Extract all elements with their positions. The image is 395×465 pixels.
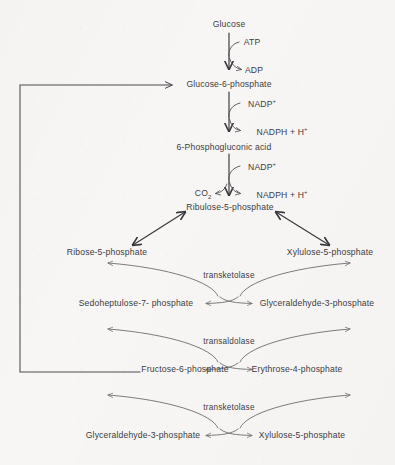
nadph-charge-2: + — [304, 189, 307, 195]
label-nadph-2: NADPH + H+ — [257, 189, 308, 200]
label-atp: ATP — [244, 38, 261, 47]
curve-nadph-out-1 — [230, 119, 241, 131]
label-co2: CO2 — [195, 189, 211, 200]
nadp-charge-2: + — [273, 161, 276, 167]
nadph-charge-1: + — [304, 126, 307, 132]
nadph-text-2: NADPH + H — [257, 190, 305, 200]
label-nadph-1: NADPH + H+ — [257, 126, 308, 137]
pathway-arrows-layer — [0, 0, 395, 465]
label-transketolase-upper: transketolase — [203, 271, 254, 280]
label-adp: ADP — [245, 66, 263, 75]
curve-nadph-out-2 — [230, 182, 241, 194]
label-ribose-5-phosphate: Ribose-5-phosphate — [67, 248, 147, 257]
curve-nadp-in-2 — [229, 166, 240, 180]
label-glyceraldehyde-3-phosphate-bottom: Glyceraldehyde-3-phosphate — [86, 431, 201, 440]
nadph-text-1: NADPH + H — [257, 127, 305, 137]
label-sedoheptulose-7-phosphate: Sedoheptulose-7- phosphate — [79, 299, 194, 308]
label-xylulose-5-phosphate-bottom: Xylulose-5-phosphate — [259, 431, 345, 440]
label-nadp-plus-1: NADP+ — [248, 98, 276, 109]
curve-g3p-to-x5p — [240, 263, 350, 296]
line-f6p-recycle-to-g6p — [20, 85, 172, 372]
label-nadp-plus-2: NADP+ — [248, 161, 276, 172]
curve-e4p-to-g3p — [240, 329, 350, 362]
curve-g3p-to-f6p — [108, 395, 218, 428]
nadp-text-2: NADP — [248, 162, 273, 172]
label-6-phosphogluconic-acid: 6-Phosphogluconic acid — [177, 143, 272, 152]
label-erythrose-4-phosphate: Erythrose-4-phosphate — [252, 365, 343, 374]
label-glyceraldehyde-3-phosphate-mid: Glyceraldehyde-3-phosphate — [260, 299, 375, 308]
label-glucose-6-phosphate: Glucose-6-phosphate — [186, 80, 271, 89]
arrow-ru5p-xylulose5p — [276, 212, 329, 245]
curve-x5p-to-e4p — [240, 395, 350, 428]
nadp-charge-1: + — [273, 98, 276, 104]
label-glucose: Glucose — [213, 20, 246, 29]
curve-f6p-to-s7p — [108, 329, 218, 362]
co2-subscript: 2 — [208, 194, 211, 200]
nadp-text-1: NADP — [248, 99, 273, 109]
arrow-ru5p-ribose5p — [133, 212, 185, 245]
label-transketolase-lower: transketolase — [203, 403, 254, 412]
curve-co2-out — [216, 184, 228, 194]
label-fructose-6-phosphate: Fructose-6-phosphate — [141, 365, 228, 374]
curve-nadp-in-1 — [229, 103, 240, 117]
label-ribulose-5-phosphate: Ribulose-5-phosphate — [186, 203, 273, 212]
pentose-phosphate-pathway-diagram: Glucose ATP ADP Glucose-6-phosphate NADP… — [0, 0, 395, 465]
curve-adp-out — [230, 58, 242, 70]
curve-s7p-to-r5p — [108, 263, 218, 296]
co2-text: CO — [195, 188, 208, 198]
label-transaldolase: transaldolase — [203, 337, 254, 346]
curve-atp-in — [229, 42, 239, 56]
label-xylulose-5-phosphate-top: Xylulose-5-phosphate — [287, 248, 373, 257]
